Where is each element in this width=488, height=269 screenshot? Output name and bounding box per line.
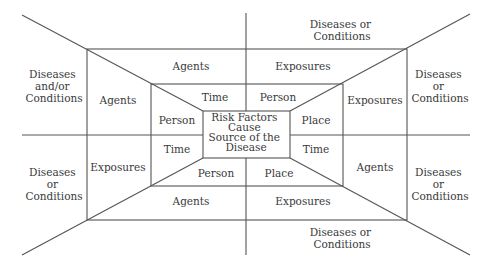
middle-top-left: Agents [172, 60, 210, 72]
inner-right-bottom: Time [303, 143, 330, 155]
outer-left-bottom: Diseases or Conditions [25, 166, 82, 202]
risk-factor-diagram: Risk Factors Cause Source of the Disease… [0, 0, 488, 269]
inner-left-top: Person [159, 114, 196, 126]
inner-bottom-left: Person [198, 167, 235, 179]
middle-bottom-left: Agents [172, 195, 210, 207]
middle-right-bottom: Agents [356, 161, 394, 173]
inner-top-right: Person [260, 91, 297, 103]
inner-bottom-right: Place [265, 167, 294, 179]
middle-left-top: Agents [99, 94, 137, 106]
outer-top-right: Diseases or Conditions [310, 18, 375, 42]
inner-right-top: Place [302, 114, 331, 126]
inner-top-left: Time [202, 91, 229, 103]
outer-left-top: Diseases and/or Conditions [25, 68, 82, 104]
middle-right-top: Exposures [347, 94, 402, 106]
outer-bottom-right: Diseases or Conditions [310, 226, 375, 250]
center-label: Risk Factors Cause Source of the Disease [209, 111, 284, 153]
middle-bottom-right: Exposures [275, 195, 330, 207]
middle-left-bottom: Exposures [90, 161, 145, 173]
outer-right-top: Diseases or Conditions [411, 68, 468, 104]
inner-left-bottom: Time [164, 143, 191, 155]
outer-right-bottom: Diseases or Conditions [411, 166, 468, 202]
middle-top-right: Exposures [275, 60, 330, 72]
